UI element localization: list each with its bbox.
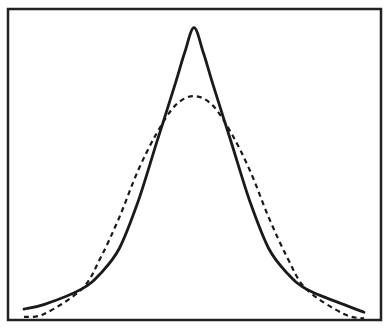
dashed-broad-curve [24,96,364,318]
plot-frame [8,9,381,320]
distribution-chart [0,0,389,333]
solid-peaked-curve [24,28,364,313]
